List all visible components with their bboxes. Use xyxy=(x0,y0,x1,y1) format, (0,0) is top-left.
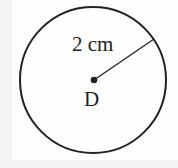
radius-label: 2 cm xyxy=(72,32,113,56)
circle-diagram: 2 cm D xyxy=(0,0,178,168)
center-point xyxy=(91,77,98,84)
center-label: D xyxy=(84,87,99,111)
